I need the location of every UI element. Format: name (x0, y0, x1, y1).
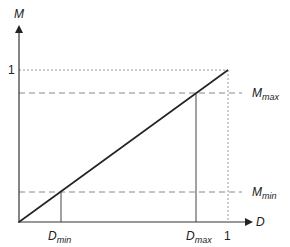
d-max-label: Dmax (186, 229, 212, 245)
d-min-label: Dmin (48, 229, 71, 245)
x-one-label: 1 (224, 229, 231, 243)
y-one-label: 1 (8, 63, 15, 77)
m-max-label: Mmax (252, 86, 280, 102)
m-min-label: Mmin (252, 185, 277, 201)
y-axis-label: M (14, 7, 24, 21)
diagram-canvas: M D 1 1 Mmax Mmin Dmax Dmin (0, 0, 290, 247)
x-axis-label: D (256, 215, 265, 229)
